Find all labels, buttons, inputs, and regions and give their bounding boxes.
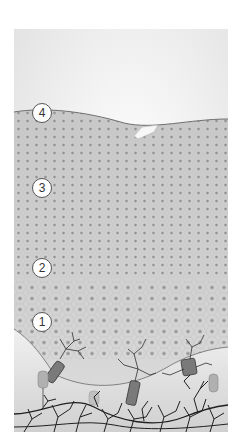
callout-2: 2 xyxy=(32,258,52,278)
callout-4: 4 xyxy=(32,103,52,123)
sensory-body-1 xyxy=(38,371,48,388)
skin-illustration xyxy=(14,29,228,432)
sensory-body-2 xyxy=(209,374,218,392)
callout-3: 3 xyxy=(32,178,52,198)
skin-layers-figure xyxy=(14,29,228,432)
callout-1: 1 xyxy=(32,312,52,332)
